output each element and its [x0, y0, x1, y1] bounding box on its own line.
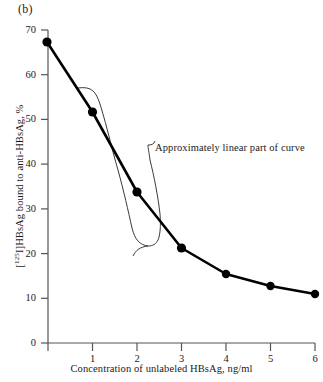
data-point: [88, 107, 97, 116]
data-markers: [42, 37, 319, 298]
y-tick-label-70: 70: [14, 24, 36, 36]
y-axis-title: [125I]HBsAg bound to anti-HBsAg, %: [14, 105, 25, 268]
brace-lower-arm: [133, 246, 148, 256]
data-point: [42, 37, 51, 46]
data-point: [266, 282, 274, 290]
data-point: [177, 243, 186, 252]
y-axis-title-suffix: I]HBsAg bound to anti-HBsAg, %: [14, 105, 25, 254]
y-axis-ticks: [41, 30, 48, 343]
data-line: [47, 42, 315, 294]
annotation-linear-part: Approximately linear part of curve: [155, 141, 305, 154]
data-point: [132, 187, 141, 196]
plot-area: [0, 0, 323, 382]
x-axis-title: Concentration of unlabeled HBsAg, ng/ml: [0, 362, 323, 375]
y-axis-title-superscript: 125: [13, 253, 21, 264]
x-axis-ticks: [48, 343, 315, 351]
brace-spine: [148, 145, 160, 246]
brace-pointer: [148, 141, 155, 145]
y-axis-title-prefix: [: [14, 264, 25, 268]
y-axis-title-wrapper: [125I]HBsAg bound to anti-HBsAg, %: [9, 41, 25, 331]
figure-panel: (b): [0, 0, 323, 382]
y-tick-label-0: 0: [14, 337, 36, 349]
data-point: [222, 270, 230, 278]
data-point: [311, 290, 319, 298]
